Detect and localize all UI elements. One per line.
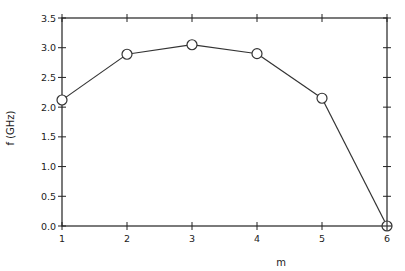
line-chart: 0.00.51.01.52.02.53.03.5 123456 m f (GHz… [0,0,405,271]
y-tick-label: 3.5 [41,13,56,24]
x-tick-label: 3 [189,233,195,244]
y-tick-label: 1.5 [41,131,56,142]
series-line-segment [197,45,252,53]
data-point-marker [187,40,197,50]
series-line-segment [324,103,384,222]
x-tick-label: 4 [254,233,260,244]
data-series [57,40,392,231]
y-tick-label: 1.0 [41,161,56,172]
series-line-segment [261,56,318,95]
data-point-marker [317,93,327,103]
x-tick-label: 5 [319,233,325,244]
y-axis-label: f (GHz) [5,110,16,145]
x-tick-label: 6 [384,233,390,244]
y-tick-label: 3.0 [41,42,56,53]
y-tick-label: 2.0 [41,102,56,113]
series-line-segment [132,45,187,53]
data-point-marker [252,49,262,59]
data-point-marker [57,95,67,105]
x-axis: 123456 [59,14,390,244]
x-tick-label: 2 [124,233,130,244]
x-tick-label: 1 [59,233,65,244]
y-tick-label: 0.0 [41,221,56,232]
series-line-segment [66,57,123,97]
y-tick-label: 2.5 [41,72,56,83]
y-axis: 0.00.51.01.52.02.53.03.5 [41,13,391,232]
x-axis-label: m [276,257,286,268]
y-tick-label: 0.5 [41,191,56,202]
chart: 0.00.51.01.52.02.53.03.5 123456 m f (GHz… [0,0,405,271]
data-point-marker [122,49,132,59]
